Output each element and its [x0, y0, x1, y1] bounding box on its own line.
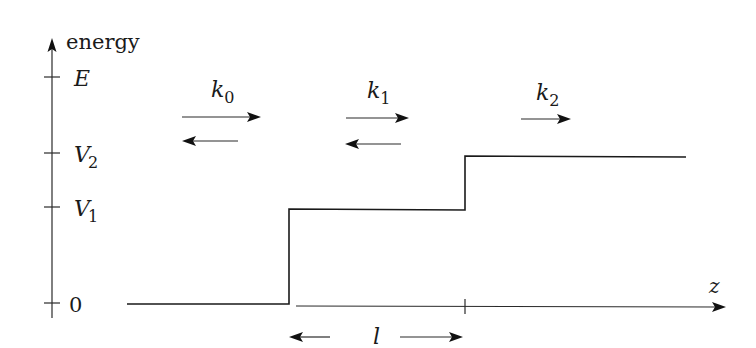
tick-label-V2: V2 — [74, 142, 98, 172]
k0-label: k0 — [211, 77, 235, 107]
potential-profile — [127, 156, 686, 304]
region-0-waves: k0 — [182, 77, 261, 146]
energy-axis: energy — [48, 30, 140, 318]
tick-label-0: 0 — [69, 293, 82, 317]
width-indicator: l — [289, 324, 463, 348]
k1-label: k1 — [367, 78, 391, 108]
potential-step-diagram: energy E V2 V1 0 z k0 k1 k2 — [0, 0, 756, 348]
k2-label: k2 — [536, 80, 560, 110]
z-axis-label: z — [708, 274, 720, 298]
width-label: l — [373, 324, 380, 348]
energy-axis-label: energy — [66, 30, 140, 54]
region-2-waves: k2 — [521, 80, 571, 124]
region-1-waves: k1 — [345, 78, 409, 149]
z-axis: z — [296, 274, 726, 314]
tick-label-E: E — [73, 66, 90, 91]
tick-label-V1: V1 — [74, 196, 98, 226]
